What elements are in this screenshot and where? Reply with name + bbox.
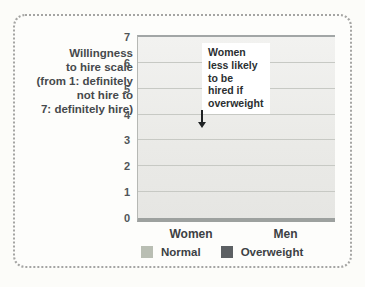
gridline-3 xyxy=(138,139,335,140)
y-axis-tick-1: 1 xyxy=(124,187,130,198)
legend-item-normal: Normal xyxy=(141,246,201,258)
y-axis-tick-2: 2 xyxy=(124,161,130,172)
gridline-2 xyxy=(138,165,335,166)
y-axis-tick-7: 7 xyxy=(124,32,130,43)
y-axis-tick-0: 0 xyxy=(124,213,130,224)
legend-swatch-overweight xyxy=(221,246,233,258)
x-axis-labels: Women Men xyxy=(137,227,335,243)
plot-area: 01234567 Women less likely to be hired i… xyxy=(137,35,335,222)
category-label-women: Women xyxy=(169,227,212,241)
annotation-arrow-line xyxy=(201,110,203,122)
y-axis-tick-4: 4 xyxy=(124,109,130,120)
y-axis-tick-6: 6 xyxy=(124,57,130,68)
y-axis-tick-5: 5 xyxy=(124,83,130,94)
figure-card: Willingness to hire scale (from 1: defin… xyxy=(13,14,352,268)
y-axis-tick-3: 3 xyxy=(124,135,130,146)
figure-page: Willingness to hire scale (from 1: defin… xyxy=(0,0,365,287)
gridline-1 xyxy=(138,191,335,192)
legend-label-overweight: Overweight xyxy=(241,246,304,258)
annotation-callout: Women less likely to be hired if overwei… xyxy=(202,43,270,114)
y-axis-title: Willingness to hire scale (from 1: defin… xyxy=(21,46,133,116)
legend: Normal Overweight xyxy=(141,246,303,258)
legend-label-normal: Normal xyxy=(161,246,201,258)
legend-item-overweight: Overweight xyxy=(221,246,304,258)
annotation-arrow-icon xyxy=(198,122,206,128)
category-label-men: Men xyxy=(274,227,298,241)
legend-swatch-normal xyxy=(141,246,153,258)
